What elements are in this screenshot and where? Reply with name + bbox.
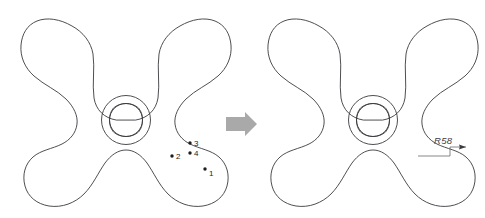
dimension-arrowhead-icon: [459, 144, 466, 149]
construction-point-1-label: 1: [209, 169, 214, 178]
construction-point-4-label: 4: [194, 149, 199, 158]
construction-point-3-label: 3: [194, 139, 199, 148]
right-spinner-view: R58: [268, 19, 478, 206]
construction-point-3: [188, 141, 191, 144]
spinner-body-outline-right: [268, 19, 478, 206]
diagram-canvas: 1 2 3 4 R58: [0, 0, 485, 218]
radius-dimension-label: R58: [434, 135, 453, 146]
dimension-leader-line: [418, 147, 466, 156]
left-spinner-view: 1 2 3 4: [21, 19, 231, 206]
flow-arrow-icon: [226, 112, 257, 136]
construction-point-2-label: 2: [176, 152, 181, 161]
construction-point-1: [203, 167, 206, 170]
spinner-body-outline-left: [21, 19, 231, 206]
construction-point-2: [170, 154, 173, 157]
construction-point-4: [188, 151, 191, 154]
engineering-drawing-svg: 1 2 3 4 R58: [0, 0, 485, 218]
